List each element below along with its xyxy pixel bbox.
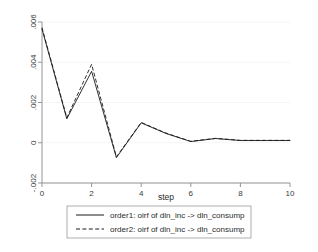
graph-root: -.0020.002.004.006 0246810 step order1: … [0, 0, 318, 252]
x-tick-label-2: 4 [139, 189, 144, 198]
legend-label-order2: order2: oirf of dln_inc -> dln_consump [110, 225, 245, 234]
x-tick-label-1: 2 [89, 189, 94, 198]
legend: order1: oirf of dln_inc -> dln_consump o… [67, 206, 251, 238]
x-tick-label-3: 6 [189, 189, 194, 198]
y-tick-label-0: -.002 [29, 173, 38, 192]
x-tick-label-4: 8 [238, 189, 243, 198]
x-axis-title: step [158, 192, 174, 202]
x-tick-label-0: 0 [40, 189, 45, 198]
y-tick-label-4: .006 [29, 14, 38, 30]
legend-label-order1: order1: oirf of dln_inc -> dln_consump [110, 211, 245, 220]
y-tick-label-3: .004 [29, 54, 38, 70]
y-tick-label-1: 0 [29, 140, 38, 145]
y-tick-label-2: .002 [29, 94, 38, 110]
x-tick-label-5: 10 [286, 189, 295, 198]
irf-chart: -.0020.002.004.006 0246810 step order1: … [0, 0, 318, 252]
